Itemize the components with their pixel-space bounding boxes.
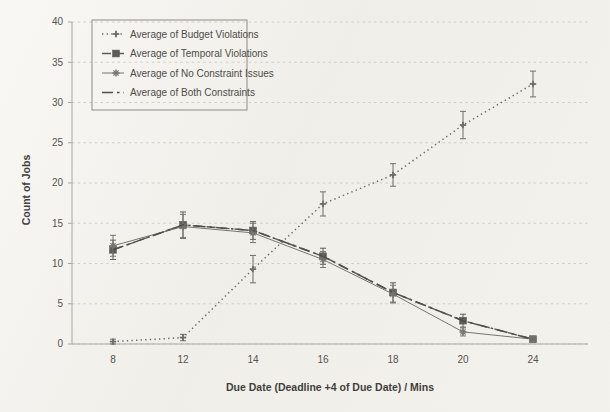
x-tick-label: 8 bbox=[110, 354, 116, 365]
x-tick-label: 16 bbox=[317, 354, 329, 365]
y-tick-label: 0 bbox=[57, 338, 63, 349]
y-tick-label: 35 bbox=[52, 57, 64, 68]
legend-label: Average of Temporal Violations bbox=[130, 48, 268, 59]
y-axis-title: Count of Jobs bbox=[20, 155, 32, 226]
y-tick-label: 40 bbox=[52, 16, 64, 27]
y-tick-label: 15 bbox=[52, 218, 64, 229]
legend-item-3[interactable]: Average of No Constraint Issues bbox=[102, 68, 274, 79]
y-tick-label: 30 bbox=[52, 97, 64, 108]
series-line bbox=[113, 225, 533, 339]
legend-item-4[interactable]: Average of Both Constraints bbox=[102, 87, 255, 98]
chart-legend: Average of Budget ViolationsAverage of T… bbox=[92, 20, 274, 110]
y-tick-label: 5 bbox=[57, 298, 63, 309]
x-tick-label: 18 bbox=[387, 354, 399, 365]
legend-label: Average of Both Constraints bbox=[130, 87, 255, 98]
chart-canvas: 0510152025303540 8121416182024 Count of … bbox=[0, 0, 610, 412]
series-2 bbox=[110, 212, 537, 343]
series-4 bbox=[113, 225, 533, 339]
chart-figure: 0510152025303540 8121416182024 Count of … bbox=[0, 0, 610, 412]
x-axis-tick-labels: 8121416182024 bbox=[110, 354, 539, 365]
x-axis-title: Due Date (Deadline +4 of Due Date) / Min… bbox=[226, 381, 434, 393]
y-tick-label: 10 bbox=[52, 258, 64, 269]
y-tick-label: 20 bbox=[52, 177, 64, 188]
x-tick-label: 24 bbox=[527, 354, 539, 365]
legend-label: Average of No Constraint Issues bbox=[130, 68, 274, 79]
y-tick-label: 25 bbox=[52, 137, 64, 148]
x-tick-label: 14 bbox=[247, 354, 259, 365]
y-axis-tick-labels: 0510152025303540 bbox=[52, 16, 72, 349]
legend-item-1[interactable]: Average of Budget Violations bbox=[102, 29, 259, 40]
x-tick-label: 12 bbox=[177, 354, 189, 365]
legend-item-2[interactable]: Average of Temporal Violations bbox=[102, 48, 268, 59]
x-tick-label: 20 bbox=[457, 354, 469, 365]
legend-label: Average of Budget Violations bbox=[130, 29, 259, 40]
